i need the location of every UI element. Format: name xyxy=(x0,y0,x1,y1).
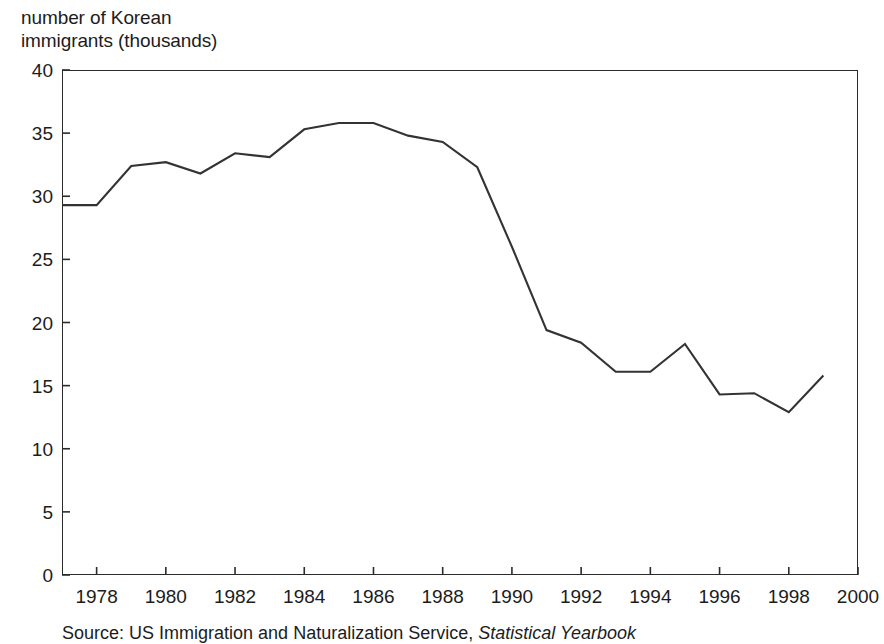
x-axis-tick-label: 1998 xyxy=(754,587,824,606)
y-axis-ticks xyxy=(62,70,70,575)
x-axis-tick-label: 1982 xyxy=(200,587,270,606)
x-axis-tick-label: 1984 xyxy=(269,587,339,606)
y-axis-tick-label: 0 xyxy=(7,566,53,585)
y-axis-tick-label: 40 xyxy=(7,61,53,80)
source-caption: Source: US Immigration and Naturalizatio… xyxy=(62,622,636,644)
x-axis-ticks xyxy=(97,567,858,575)
x-axis-tick-label: 1986 xyxy=(338,587,408,606)
y-axis-tick-label: 15 xyxy=(7,377,53,396)
data-line-korean-immigrants xyxy=(62,123,823,412)
plot-canvas xyxy=(62,70,858,575)
x-axis-tick-label: 1980 xyxy=(131,587,201,606)
y-axis-tick-label: 30 xyxy=(7,187,53,206)
y-axis-tick-label: 20 xyxy=(7,314,53,333)
source-publication: Statistical Yearbook xyxy=(478,623,636,643)
source-agency: US Immigration and Naturalization Servic… xyxy=(129,623,473,643)
x-axis-tick-label: 2000 xyxy=(823,587,884,606)
y-axis-tick-label: 25 xyxy=(7,250,53,269)
x-axis-tick-label: 1990 xyxy=(477,587,547,606)
x-axis-tick-label: 1992 xyxy=(546,587,616,606)
y-axis-tick-label: 5 xyxy=(7,503,53,522)
x-axis-tick-label: 1996 xyxy=(685,587,755,606)
y-axis-title: number of Korean immigrants (thousands) xyxy=(21,6,217,52)
x-axis-tick-label: 1994 xyxy=(615,587,685,606)
y-axis-tick-label: 10 xyxy=(7,440,53,459)
source-prefix: Source: xyxy=(62,623,124,643)
x-axis-tick-label: 1978 xyxy=(62,587,132,606)
x-axis-tick-label: 1988 xyxy=(408,587,478,606)
y-axis-tick-label: 35 xyxy=(7,124,53,143)
